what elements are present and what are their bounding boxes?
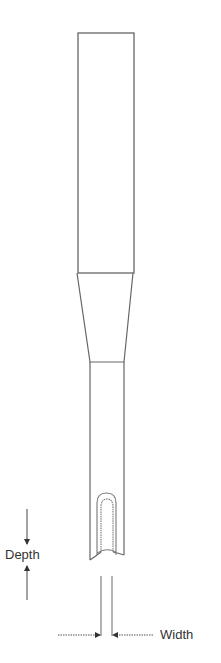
shank (78, 33, 134, 273)
depth-label: Depth (5, 548, 40, 561)
body (90, 362, 124, 560)
tip (90, 552, 124, 560)
tool-diagram (0, 0, 221, 663)
flute-slot-inner (101, 499, 113, 552)
width-label: Width (160, 628, 193, 641)
taper (77, 273, 133, 362)
